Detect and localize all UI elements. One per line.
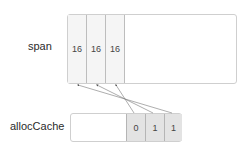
arrow-icon — [78, 85, 172, 113]
pointer-arrows — [0, 0, 246, 154]
